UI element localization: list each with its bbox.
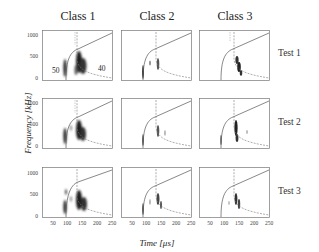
xtick: 150: [231, 220, 247, 226]
xtick: 250: [104, 220, 120, 226]
panel-class1-test3: [42, 167, 113, 218]
panel-class2-test3: [121, 167, 192, 218]
spectrogram-plot: [199, 98, 270, 149]
row-label-test-3: Test 3: [278, 186, 301, 196]
xtick: 150: [153, 220, 169, 226]
xtick: 100: [138, 220, 154, 226]
panel-class1-test1: 50 40: [42, 30, 113, 81]
xtick: 200: [89, 220, 105, 226]
row-label-test-1: Test 1: [278, 48, 301, 58]
ytick: 500: [18, 121, 38, 127]
ytick: 1000: [18, 100, 38, 106]
annotation-50: 50: [52, 66, 60, 75]
panel-class1-test2: [42, 98, 113, 149]
column-title-class-1: Class 1: [42, 9, 114, 24]
panel-class3-test1: [199, 30, 270, 81]
xtick: 250: [261, 220, 277, 226]
ytick: 0: [18, 143, 38, 149]
xtick: 100: [59, 220, 75, 226]
ytick: 1000: [18, 32, 38, 38]
panel-class3-test3: [199, 167, 270, 218]
spectrogram-plot: [199, 30, 270, 81]
ytick: 500: [18, 191, 38, 197]
xtick: 150: [74, 220, 90, 226]
ytick: 0: [18, 75, 38, 81]
panel-class2-test2: [121, 98, 192, 149]
spectrogram-plot: [121, 167, 192, 218]
panel-class2-test1: [121, 30, 192, 81]
x-axis-label: Time [μs]: [112, 238, 202, 248]
ytick: 1000: [18, 170, 38, 176]
spectrogram-plot: [121, 30, 192, 81]
row-label-test-2: Test 2: [278, 117, 301, 127]
xtick: 250: [183, 220, 199, 226]
spectrogram-plot: [199, 167, 270, 218]
xtick: 200: [246, 220, 262, 226]
spectrogram-plot: [42, 98, 113, 149]
xtick: 200: [168, 220, 184, 226]
xtick: 100: [216, 220, 232, 226]
column-title-class-3: Class 3: [199, 9, 271, 24]
panel-class3-test2: [199, 98, 270, 149]
annotation-40: 40: [98, 64, 106, 73]
column-title-class-2: Class 2: [121, 9, 193, 24]
ytick: 500: [18, 53, 38, 59]
ytick: 0: [18, 213, 38, 219]
spectrogram-plot: [42, 167, 113, 218]
spectrogram-plot: [121, 98, 192, 149]
